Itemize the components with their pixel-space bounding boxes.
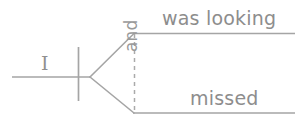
conjunction-label: and bbox=[121, 19, 141, 52]
predicate-lower-label: missed bbox=[190, 87, 259, 109]
fork-lower-diagonal-line bbox=[90, 77, 134, 113]
subject-label: I bbox=[41, 52, 49, 74]
predicate-upper-label: was looking bbox=[162, 7, 276, 29]
sentence-diagram-canvas: I was looking missed and bbox=[0, 0, 306, 124]
